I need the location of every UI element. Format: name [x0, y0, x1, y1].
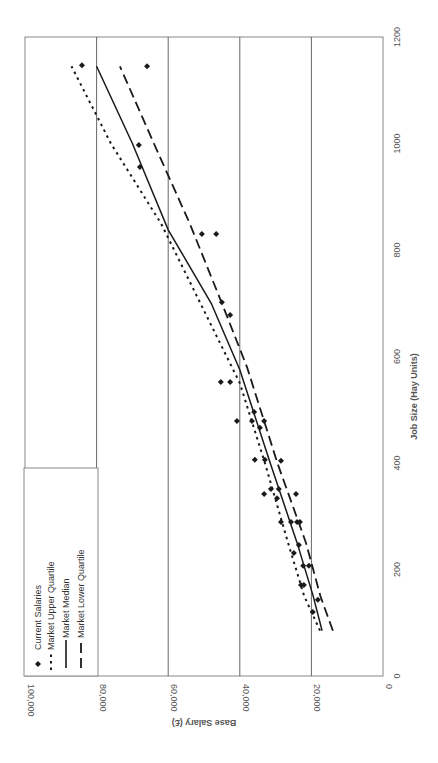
- y-tick-label: 60,000: [169, 684, 179, 712]
- x-tick-label: 600: [392, 349, 402, 364]
- current-salary-point: [252, 457, 258, 463]
- x-tick-label: 200: [392, 562, 402, 577]
- legend-item-label: Current Salaries: [33, 584, 43, 650]
- current-salary-point: [315, 597, 321, 603]
- x-axis-label: Job Size (Hay Units): [409, 353, 419, 440]
- current-salary-point: [79, 62, 85, 68]
- current-salary-point: [213, 231, 219, 237]
- current-salary-point: [291, 550, 297, 556]
- current-salary-point: [136, 142, 142, 148]
- legend-item-label: Market Median: [61, 578, 71, 638]
- y-tick-label: 40,000: [241, 684, 251, 712]
- y-tick-label: 0: [384, 684, 394, 689]
- legend-item-label: Market Upper Quartile: [46, 561, 56, 650]
- current-salary-point: [268, 486, 274, 492]
- market-upper-quartile-line: [72, 66, 321, 630]
- x-tick-label: 400: [392, 455, 402, 470]
- y-tick-label: 80,000: [98, 684, 108, 712]
- x-tick-label: 0: [392, 673, 402, 678]
- x-tick-label: 1000: [392, 133, 402, 153]
- y-tick-label: 20,000: [312, 684, 322, 712]
- market-lower-quartile-line: [120, 66, 333, 630]
- current-salary-point: [199, 231, 205, 237]
- legend: Current SalariesMarket Upper QuartileMar…: [24, 468, 98, 676]
- current-salary-point: [278, 458, 284, 464]
- y-axis-label: Base Salary (£): [172, 718, 237, 728]
- salary-chart: 020,00040,00060,00080,000100,00002004006…: [0, 0, 438, 763]
- legend-item-label: Market Lower Quartile: [76, 549, 86, 638]
- chart-canvas: 020,00040,00060,00080,000100,00002004006…: [0, 0, 438, 763]
- market-median-line: [97, 66, 323, 630]
- y-tick-label: 100,000: [26, 684, 36, 717]
- current-salary-point: [261, 491, 267, 497]
- current-salary-point: [234, 418, 240, 424]
- series-layer: [72, 62, 333, 630]
- x-tick-label: 800: [392, 242, 402, 257]
- current-salary-point: [218, 379, 224, 385]
- current-salary-point: [293, 491, 299, 497]
- x-tick-label: 1200: [392, 27, 402, 47]
- current-salary-point: [144, 63, 150, 69]
- current-salary-point: [227, 379, 233, 385]
